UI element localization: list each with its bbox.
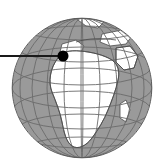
land-scandinavia bbox=[96, 4, 114, 20]
land-greenland bbox=[38, 0, 74, 10]
parallel-60N bbox=[19, 0, 145, 16]
location-marker[interactable]: Marked location bbox=[58, 51, 69, 62]
coastline-europe bbox=[74, 6, 108, 12]
globe-locator-figure: World globe locator bbox=[0, 0, 165, 168]
globe-graphic: Marked location bbox=[0, 0, 165, 168]
